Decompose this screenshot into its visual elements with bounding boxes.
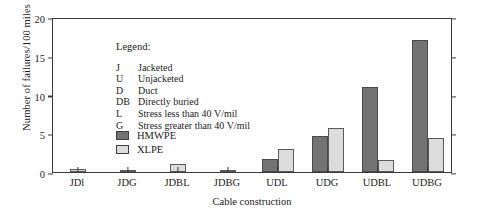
bar-udl-xlpe [278,149,294,172]
y-tick-mark [48,96,53,97]
legend-entry-desc: Duct [138,85,157,97]
y-tick-0: 0 [25,169,53,180]
y-tick-mark-right [451,96,456,97]
x-tick-label-udbl: UDBL [363,177,392,188]
y-tick-mark [48,18,53,19]
series-label: HMWPE [137,130,176,141]
y-tick-mark [48,57,53,58]
legend-entry-key: J [116,62,138,74]
legend-entry-desc: Stress less than 40 V/mil [138,108,237,120]
chart-figure: Number of failures/100 miles 05101520 Le… [0,0,483,219]
y-tick-label: 0 [25,169,45,180]
y-tick-15: 15 [25,52,53,63]
y-tick-label: 20 [25,14,45,25]
legend-entry-key: DB [116,96,138,108]
y-tick-mark-right [451,135,456,136]
legend-entry-key: L [116,108,138,120]
y-tick-mark-right [451,18,456,19]
x-tick-label-udbg: UDBG [412,177,442,188]
legend-entry-key: D [116,85,138,97]
legend-entry-desc: Directly buried [138,96,199,108]
y-tick-mark [48,135,53,136]
bar-udg-xlpe [328,128,344,172]
bar-group-udg [303,19,353,172]
y-tick-mark-right [451,57,456,58]
x-axis-title: Cable construction [52,196,452,207]
y-tick-mark [48,173,53,174]
bar-udbl-xlpe [378,160,394,172]
bar-group-udl [253,19,303,172]
y-tick-10: 10 [25,91,53,102]
bar-udbg-xlpe [428,138,444,172]
bar-group-udbl [353,19,403,172]
x-tick-mark [377,167,378,172]
series-swatch-xlpe [116,145,129,154]
bar-series-container [53,19,451,172]
legend-entry-j: JJacketed [116,62,250,74]
x-tick-label-jdg: JDG [117,177,136,188]
series-label: XLPE [137,144,163,155]
x-tick-mark [177,167,178,172]
x-tick-mark [127,167,128,172]
x-tick-mark [77,167,78,172]
x-tick-label-udg: UDG [316,177,339,188]
series-swatch-hmwpe [116,131,129,140]
x-tick-label-jdl: JDl [70,177,85,188]
x-tick-mark [427,167,428,172]
legend-entry-d: DDuct [116,85,250,97]
legend-entry-l: LStress less than 40 V/mil [116,108,250,120]
legend-entry-desc: Jacketed [138,62,172,74]
legend-series-keys: HMWPEXLPE [116,130,176,158]
y-tick-label: 15 [25,52,45,63]
plot-area: 05101520 Legend: JJacketedUUnjacketedDDu… [52,18,452,173]
bar-udl-hmwpe [262,159,278,172]
x-tick-label-udl: UDL [266,177,288,188]
series-key-hmwpe: HMWPE [116,130,176,141]
x-tick-mark [327,167,328,172]
x-tick-mark [227,167,228,172]
bar-group-jdl [53,19,103,172]
legend-entry-u: UUnjacketed [116,73,250,85]
bar-group-udbg [403,19,453,172]
x-tick-label-jdbg: JDBG [214,177,240,188]
y-tick-20: 20 [25,14,53,25]
bar-udbg-hmwpe [412,40,428,172]
legend-definitions: Legend: JJacketedUUnjacketedDDuctDBDirec… [116,41,250,131]
legend-entry-key: U [116,73,138,85]
legend-definition-rows: JJacketedUUnjacketedDDuctDBDirectly buri… [116,62,250,132]
bar-udg-hmwpe [312,136,328,172]
legend-entry-desc: Unjacketed [138,73,184,85]
bar-udbl-hmwpe [362,87,378,172]
x-tick-label-jdbl: JDBL [164,177,189,188]
y-tick-label: 5 [25,130,45,141]
y-tick-mark-right [451,173,456,174]
y-tick-5: 5 [25,130,53,141]
x-tick-mark [277,167,278,172]
legend-title: Legend: [116,41,250,53]
y-tick-label: 10 [25,91,45,102]
series-key-xlpe: XLPE [116,144,176,155]
legend-entry-db: DBDirectly buried [116,96,250,108]
